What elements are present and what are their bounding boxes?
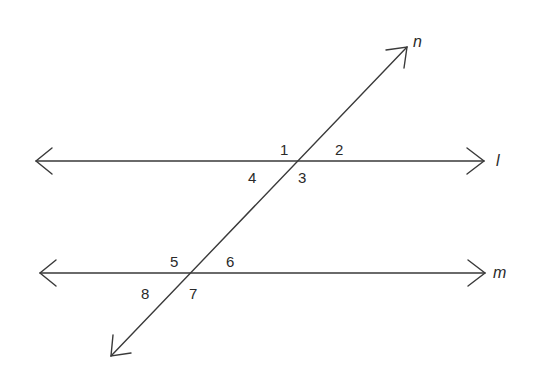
angle-label-3: 3 — [298, 169, 306, 186]
line-m — [40, 260, 485, 286]
angle-label-4: 4 — [248, 169, 256, 186]
angle-label-7: 7 — [189, 285, 197, 302]
angle-label-1: 1 — [280, 141, 288, 158]
line-l — [36, 148, 484, 174]
angle-label-5: 5 — [170, 253, 178, 270]
line-n — [111, 47, 407, 356]
transversal-diagram: n l m 1 2 3 4 5 6 7 8 — [0, 0, 536, 383]
angle-label-8: 8 — [141, 285, 149, 302]
angle-label-2: 2 — [335, 141, 343, 158]
line-label-l: l — [496, 152, 500, 169]
line-label-n: n — [413, 33, 422, 50]
line-label-m: m — [493, 264, 506, 281]
angle-label-6: 6 — [226, 253, 234, 270]
